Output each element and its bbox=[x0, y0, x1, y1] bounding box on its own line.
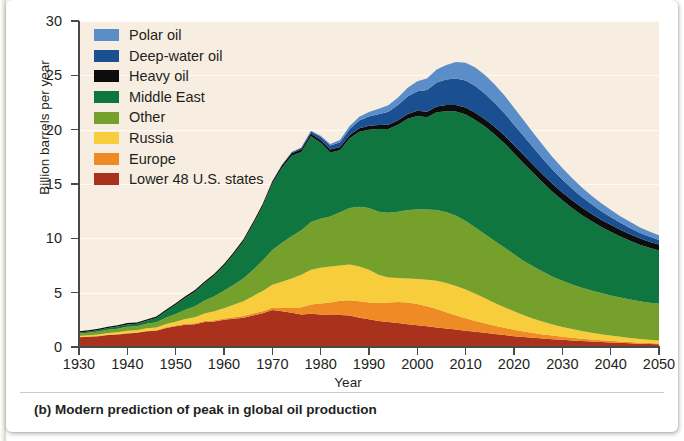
x-tick-1930 bbox=[78, 347, 80, 355]
x-tick-2050 bbox=[658, 347, 660, 355]
chart-legend: Polar oilDeep-water oilHeavy oilMiddle E… bbox=[94, 25, 264, 190]
x-tick-1980 bbox=[320, 347, 322, 355]
legend-label: Other bbox=[129, 110, 165, 125]
figure-caption: (b) Modern prediction of peak in global … bbox=[34, 402, 377, 417]
y-tick-25 bbox=[71, 75, 79, 77]
x-axis-title: Year bbox=[6, 375, 678, 390]
legend-item-lower-48-u-s-states: Lower 48 U.S. states bbox=[94, 169, 264, 190]
legend-label: Europe bbox=[129, 152, 176, 167]
legend-label: Polar oil bbox=[129, 28, 181, 43]
legend-swatch-icon bbox=[94, 70, 119, 82]
legend-item-polar-oil: Polar oil bbox=[94, 25, 264, 46]
legend-label: Deep-water oil bbox=[129, 49, 223, 64]
legend-label: Lower 48 U.S. states bbox=[129, 172, 264, 187]
x-tick-2000 bbox=[417, 347, 419, 355]
y-tick-30 bbox=[71, 20, 79, 22]
legend-swatch-icon bbox=[94, 91, 119, 103]
y-tick-label-10: 10 bbox=[34, 231, 62, 246]
legend-swatch-icon bbox=[94, 153, 119, 165]
legend-label: Middle East bbox=[129, 90, 205, 105]
x-tick-1960 bbox=[223, 347, 225, 355]
legend-item-europe: Europe bbox=[94, 149, 264, 170]
caption-divider bbox=[20, 392, 664, 393]
y-tick-label-30: 30 bbox=[34, 14, 62, 29]
legend-swatch-icon bbox=[94, 112, 119, 124]
x-tick-1970 bbox=[272, 347, 274, 355]
legend-swatch-icon bbox=[94, 173, 119, 185]
y-tick-20 bbox=[71, 129, 79, 131]
legend-swatch-icon bbox=[94, 29, 119, 41]
legend-item-deep-water-oil: Deep-water oil bbox=[94, 46, 264, 67]
y-tick-label-0: 0 bbox=[34, 340, 62, 355]
legend-label: Russia bbox=[129, 131, 173, 146]
legend-item-middle-east: Middle East bbox=[94, 87, 264, 108]
x-tick-2020 bbox=[513, 347, 515, 355]
x-tick-1940 bbox=[127, 347, 129, 355]
y-tick-5 bbox=[71, 292, 79, 294]
x-tick-1950 bbox=[175, 347, 177, 355]
legend-item-russia: Russia bbox=[94, 128, 264, 149]
legend-swatch-icon bbox=[94, 50, 119, 62]
y-tick-10 bbox=[71, 238, 79, 240]
legend-item-other: Other bbox=[94, 107, 264, 128]
legend-item-heavy-oil: Heavy oil bbox=[94, 66, 264, 87]
y-tick-label-5: 5 bbox=[34, 286, 62, 301]
legend-label: Heavy oil bbox=[129, 69, 189, 84]
y-tick-15 bbox=[71, 183, 79, 185]
x-tick-2040 bbox=[610, 347, 612, 355]
x-tick-2010 bbox=[465, 347, 467, 355]
legend-swatch-icon bbox=[94, 132, 119, 144]
y-axis-title: Billion barrels per year bbox=[37, 28, 52, 228]
figure-card: 051015202530 193019401950196019701980199… bbox=[6, 0, 678, 432]
x-tick-1990 bbox=[368, 347, 370, 355]
x-tick-label-2050: 2050 bbox=[631, 357, 678, 372]
x-tick-2030 bbox=[562, 347, 564, 355]
